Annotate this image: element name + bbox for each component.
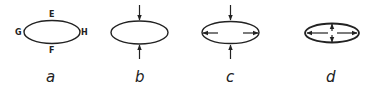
ellipse-b: [111, 21, 168, 44]
panel-a: E F G H a: [15, 10, 88, 86]
caption-c: c: [226, 68, 235, 86]
caption-d: d: [326, 68, 336, 86]
panel-d: d: [305, 24, 359, 87]
caption-a: a: [46, 68, 55, 86]
point-label-g: G: [15, 28, 22, 37]
point-label-h: H: [81, 28, 88, 37]
ellipse-deformation-figure: E F G H a b c d: [0, 0, 375, 92]
caption-b: b: [135, 68, 145, 86]
panel-b: b: [111, 5, 168, 86]
panel-c: c: [202, 5, 259, 86]
point-label-e: E: [49, 10, 54, 19]
point-label-f: F: [49, 46, 54, 55]
ellipse-a: [24, 21, 80, 44]
